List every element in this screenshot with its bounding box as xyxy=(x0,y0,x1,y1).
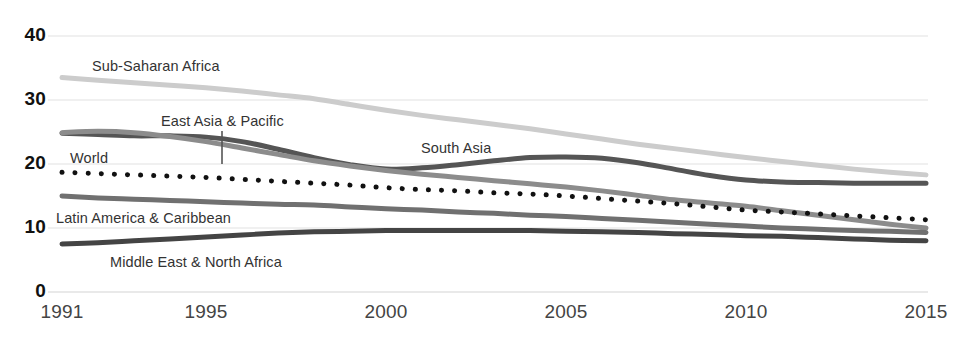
series-label-south-asia: South Asia xyxy=(421,140,491,156)
chart-plot-area xyxy=(0,0,955,339)
series-label-latin-america-caribbean: Latin America & Caribbean xyxy=(56,210,231,226)
x-tick-2015: 2015 xyxy=(886,301,955,323)
y-tick-20: 20 xyxy=(2,152,46,174)
y-tick-40: 40 xyxy=(2,24,46,46)
line-chart: 403020100 199119952000200520102015 Sub-S… xyxy=(0,0,955,339)
series-line-middle-east-north-africa xyxy=(62,231,926,244)
series-label-middle-east-north-africa: Middle East & North Africa xyxy=(110,254,282,270)
series-label-east-asia-pacific: East Asia & Pacific xyxy=(161,113,284,129)
y-tick-30: 30 xyxy=(2,88,46,110)
x-tick-1995: 1995 xyxy=(166,301,246,323)
y-tick-0: 0 xyxy=(2,280,46,302)
x-tick-1991: 1991 xyxy=(22,301,102,323)
y-tick-10: 10 xyxy=(2,216,46,238)
x-tick-2000: 2000 xyxy=(346,301,426,323)
x-tick-2010: 2010 xyxy=(706,301,786,323)
series-label-world: World xyxy=(70,150,108,166)
x-tick-2005: 2005 xyxy=(526,301,606,323)
series-label-sub-saharan-africa: Sub-Saharan Africa xyxy=(92,58,220,74)
